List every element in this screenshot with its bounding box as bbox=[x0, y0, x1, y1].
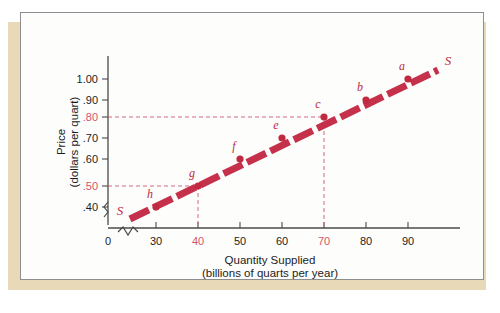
y-axis-title-group: Price (dollars per quart) bbox=[55, 96, 80, 187]
x-tick-label-40: 40 bbox=[192, 235, 204, 247]
data-point-label-f: f bbox=[232, 139, 237, 153]
x-tick-label-60: 60 bbox=[276, 235, 288, 247]
y-tick-label-0-80: .80 bbox=[83, 111, 98, 123]
x-tick-labels: 30 40 50 60 70 80 90 0 bbox=[105, 235, 414, 247]
x-axis-title: Quantity Supplied bbox=[225, 254, 316, 266]
data-point-label-b: b bbox=[357, 80, 363, 94]
data-point-e bbox=[278, 134, 285, 141]
x-axis-title-group: Quantity Supplied (billions of quarts pe… bbox=[202, 254, 338, 279]
data-point-label-g: g bbox=[189, 166, 195, 180]
x-axis-title-units: (billions of quarts per year) bbox=[202, 267, 338, 279]
y-tick-marks bbox=[102, 79, 108, 207]
y-tick-label-0-40: .40 bbox=[83, 201, 98, 213]
x-tick-marks bbox=[156, 222, 408, 228]
y-axis-title: Price bbox=[55, 129, 67, 155]
supply-curve-chart: 1.00 .90 .80 .70 .60 .50 .40 30 40 50 60… bbox=[20, 12, 484, 280]
supply-curve-label-start: S bbox=[117, 203, 124, 218]
y-tick-label-1-00: 1.00 bbox=[77, 73, 98, 85]
supply-curve-label-end: S bbox=[445, 53, 452, 68]
data-point-b bbox=[362, 96, 369, 103]
data-point-label-a: a bbox=[399, 59, 405, 73]
data-point-f bbox=[236, 155, 243, 162]
y-axis-title-units: (dollars per quart) bbox=[68, 96, 80, 187]
data-point-label-e: e bbox=[273, 118, 279, 132]
y-tick-label-0-70: .70 bbox=[83, 132, 98, 144]
x-tick-label-50: 50 bbox=[234, 235, 246, 247]
figure-page: 1.00 .90 .80 .70 .60 .50 .40 30 40 50 60… bbox=[0, 0, 500, 313]
data-point-label-h: h bbox=[147, 187, 153, 201]
data-point-labels-group: h g f e c b a bbox=[147, 59, 405, 201]
y-tick-label-0-50: .50 bbox=[83, 180, 98, 192]
data-point-a bbox=[404, 75, 411, 82]
supply-curve-line bbox=[130, 70, 438, 219]
origin-label: 0 bbox=[105, 235, 111, 247]
y-tick-label-0-60: .60 bbox=[83, 153, 98, 165]
data-point-h bbox=[152, 203, 159, 210]
data-point-label-c: c bbox=[315, 97, 321, 111]
x-tick-label-70: 70 bbox=[318, 235, 330, 247]
supply-curve-line-group bbox=[130, 70, 438, 219]
y-tick-label-0-90: .90 bbox=[83, 94, 98, 106]
x-tick-label-80: 80 bbox=[360, 235, 372, 247]
x-tick-label-90: 90 bbox=[402, 235, 414, 247]
data-point-c bbox=[320, 113, 327, 120]
data-point-g bbox=[194, 182, 201, 189]
x-tick-label-30: 30 bbox=[150, 235, 162, 247]
